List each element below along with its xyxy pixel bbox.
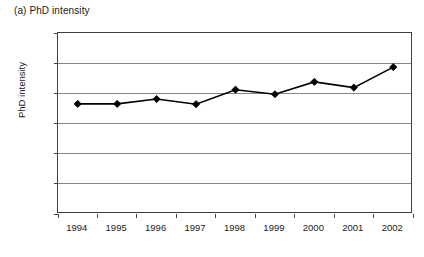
chart-title: (a) PhD intensity	[14, 5, 90, 17]
x-tick-mark	[334, 214, 335, 218]
data-point-marker	[192, 101, 199, 108]
x-tick-mark	[294, 214, 295, 218]
x-tick-mark	[136, 214, 137, 218]
data-point-marker	[350, 84, 357, 91]
x-tick-mark	[58, 214, 59, 218]
x-tick-mark	[413, 214, 414, 218]
data-point-marker	[390, 63, 397, 70]
x-tick-mark	[176, 214, 177, 218]
x-tick-label: 2002	[369, 222, 415, 233]
y-axis-title: PhD intensity	[17, 20, 27, 160]
data-point-marker	[232, 86, 239, 93]
series-line-and-markers	[58, 33, 413, 214]
plot-area: 00.010.020.030.040.050.06	[57, 32, 412, 213]
chart-figure: (a) PhD intensity PhD intensity 00.010.0…	[0, 0, 424, 257]
x-tick-mark	[215, 214, 216, 218]
x-tick-mark	[255, 214, 256, 218]
data-point-marker	[114, 100, 121, 107]
data-point-marker	[74, 100, 81, 107]
data-point-marker	[311, 78, 318, 85]
data-point-marker	[153, 95, 160, 102]
data-point-marker	[271, 91, 278, 98]
x-tick-mark	[373, 214, 374, 218]
x-tick-mark	[97, 214, 98, 218]
